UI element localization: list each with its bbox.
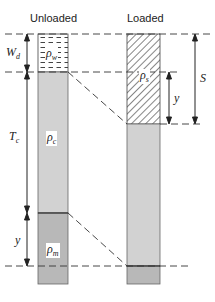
sediment-thickness-label: S [200,72,206,84]
reference-lines [5,34,210,266]
diagonal-lower [68,213,127,266]
water-depth-label: Wd [6,46,20,61]
isostasy-diagram [0,0,215,302]
crust-layer-loaded [127,124,160,266]
deflection-right-label: y [174,92,179,104]
crust-density-label: ρc [46,131,57,146]
mantle-layer-loaded [127,266,160,284]
crust-thickness-label: Tc [9,130,19,145]
loaded-title: Loaded [127,12,164,24]
water-density-label: ρw [45,47,58,62]
sediment-density-label: ρs [139,69,150,84]
mantle-density-label: ρm [46,243,60,258]
diagonal-upper [68,72,127,124]
deflection-left-label: y [15,234,20,246]
unloaded-title: Unloaded [30,12,77,24]
